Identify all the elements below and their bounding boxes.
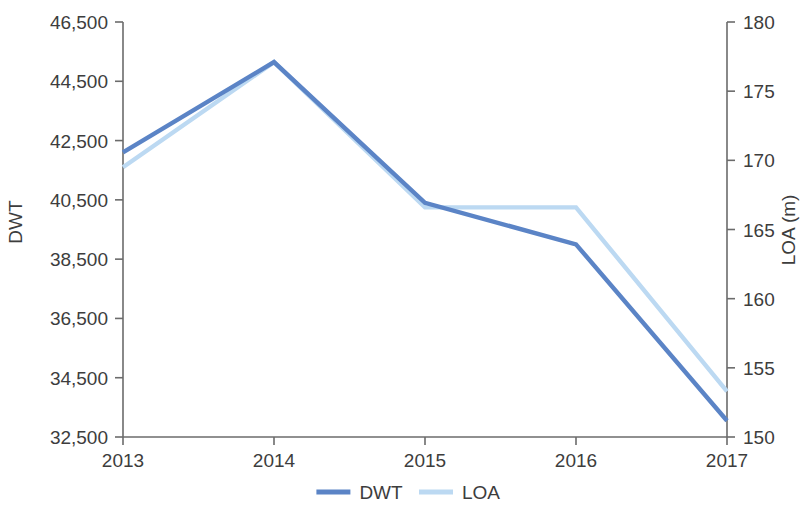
chart-container: 32,50034,50036,50038,50040,50042,50044,5… — [0, 0, 812, 506]
left-axis-tick-label: 46,500 — [50, 12, 108, 33]
right-axis-ticks: 150155160165170175180 — [727, 12, 775, 448]
left-axis-tick-label: 42,500 — [50, 131, 108, 152]
right-axis-tick-label: 175 — [743, 81, 775, 102]
axes-group — [123, 22, 727, 437]
x-axis-tick-label: 2014 — [253, 450, 296, 471]
legend-label-loa: LOA — [462, 482, 500, 503]
left-axis-tick-label: 40,500 — [50, 190, 108, 211]
right-axis-tick-label: 180 — [743, 12, 775, 33]
left-axis-tick-label: 44,500 — [50, 71, 108, 92]
right-axis-tick-label: 160 — [743, 289, 775, 310]
right-axis-tick-label: 170 — [743, 150, 775, 171]
x-axis-tick-label: 2017 — [706, 450, 748, 471]
left-axis-tick-label: 34,500 — [50, 368, 108, 389]
left-axis-tick-label: 36,500 — [50, 308, 108, 329]
right-axis-tick-label: 155 — [743, 358, 775, 379]
series-line-dwt — [123, 62, 727, 421]
x-axis-tick-label: 2015 — [404, 450, 446, 471]
series-line-loa — [123, 62, 727, 391]
left-axis-tick-label: 32,500 — [50, 427, 108, 448]
right-axis-tick-label: 150 — [743, 427, 775, 448]
chart-legend: DWTLOA — [316, 482, 500, 503]
left-axis-title: DWT — [5, 200, 26, 244]
line-chart: 32,50034,50036,50038,50040,50042,50044,5… — [0, 0, 812, 506]
x-axis-ticks: 20132014201520162017 — [102, 437, 748, 471]
x-axis-tick-label: 2016 — [555, 450, 597, 471]
series-group — [123, 62, 727, 421]
left-axis-ticks: 32,50034,50036,50038,50040,50042,50044,5… — [50, 12, 123, 448]
right-axis-tick-label: 165 — [743, 220, 775, 241]
right-axis-title: LOA (m) — [778, 195, 799, 266]
x-axis-tick-label: 2013 — [102, 450, 144, 471]
left-axis-tick-label: 38,500 — [50, 249, 108, 270]
legend-label-dwt: DWT — [359, 482, 403, 503]
